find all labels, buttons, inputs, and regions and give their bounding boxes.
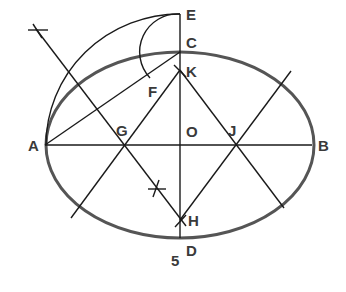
label-e: E — [186, 6, 196, 23]
label-o: O — [186, 123, 198, 140]
figure-number: 5 — [171, 252, 179, 269]
label-a: A — [28, 137, 39, 154]
label-k: K — [186, 63, 197, 80]
label-f: F — [148, 83, 157, 100]
label-g: G — [116, 122, 128, 139]
label-h: H — [188, 212, 199, 229]
label-b: B — [318, 137, 329, 154]
perpendicular-bisector — [36, 29, 186, 226]
ellipse-construction-diagram: E C K F G O J A B H D 5 — [0, 0, 346, 292]
label-c: C — [186, 34, 197, 51]
cross-mark-top — [33, 24, 42, 38]
label-d: D — [186, 242, 197, 259]
diagram-canvas: E C K F G O J A B H D 5 — [0, 0, 346, 292]
arc-a-to-e — [46, 14, 180, 145]
arc-e-to-f — [140, 14, 180, 78]
label-j: J — [228, 122, 236, 139]
